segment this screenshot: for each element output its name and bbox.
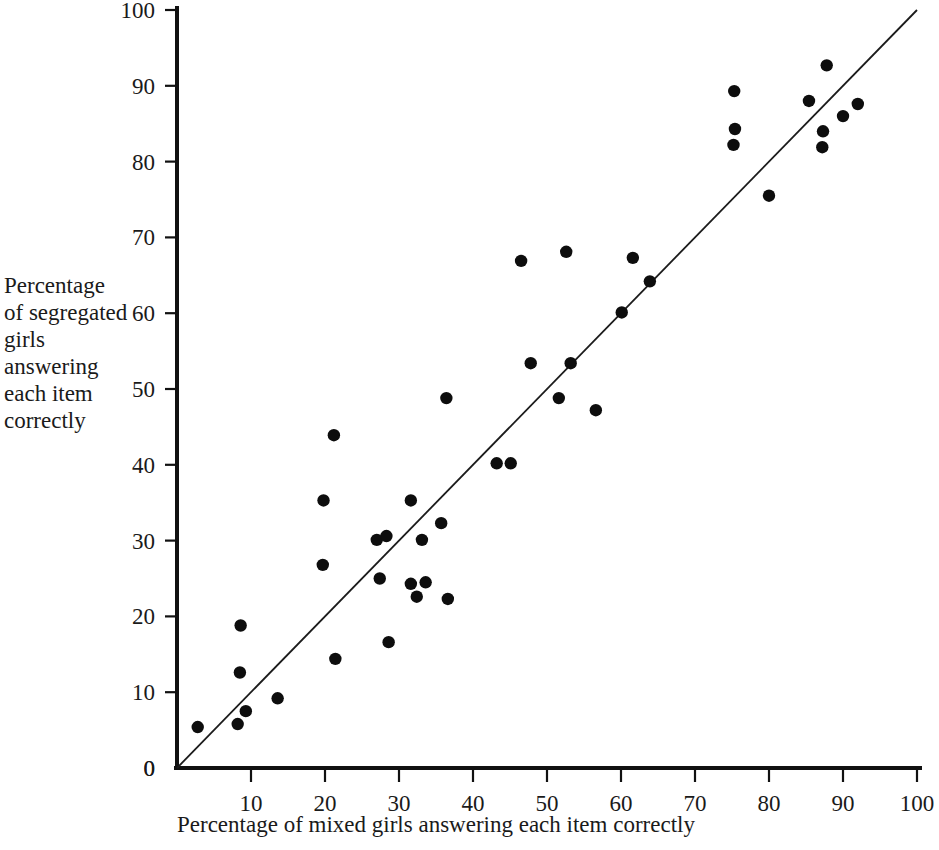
y-tick-label: 30 — [132, 529, 155, 554]
data-point — [525, 357, 537, 369]
data-point — [560, 246, 572, 258]
y-tick-label: 60 — [132, 301, 155, 326]
data-point — [837, 110, 849, 122]
data-point — [553, 392, 565, 404]
data-point — [505, 457, 517, 469]
data-point — [729, 123, 741, 135]
data-point — [405, 578, 417, 590]
data-point — [234, 666, 246, 678]
data-point — [411, 590, 423, 602]
data-point — [435, 517, 447, 529]
data-point — [317, 559, 329, 571]
data-point — [817, 125, 829, 137]
data-point — [616, 306, 628, 318]
data-point — [816, 141, 828, 153]
data-point — [728, 85, 740, 97]
identity-reference-line — [177, 10, 917, 768]
data-point — [231, 718, 243, 730]
data-point — [328, 429, 340, 441]
data-point — [329, 653, 341, 665]
y-tick-label: 70 — [132, 225, 155, 250]
data-point — [240, 705, 252, 717]
y-tick-label: 20 — [132, 604, 155, 629]
data-point — [490, 457, 502, 469]
scatter-plot-figure: 0102030405060708090100010203040506070809… — [0, 0, 939, 850]
data-point — [763, 190, 775, 202]
y-tick-label: 90 — [132, 74, 155, 99]
data-point — [317, 494, 329, 506]
y-tick-label: 80 — [132, 150, 155, 175]
x-tick-label: 0 — [144, 756, 156, 781]
x-axis-title: Percentage of mixed girls answering each… — [177, 812, 917, 838]
data-point — [590, 404, 602, 416]
data-point — [644, 275, 656, 287]
y-tick-label: 10 — [132, 680, 155, 705]
y-tick-label: 40 — [132, 453, 155, 478]
y-tick-label: 50 — [132, 377, 155, 402]
y-axis-title: Percentage of segregated girls answering… — [4, 272, 130, 434]
data-point — [727, 139, 739, 151]
data-point — [405, 494, 417, 506]
data-point — [627, 252, 639, 264]
data-point — [564, 357, 576, 369]
data-point — [803, 95, 815, 107]
identity-reference-line — [177, 10, 917, 768]
data-point — [271, 692, 283, 704]
data-point — [234, 619, 246, 631]
y-tick-label: 100 — [121, 0, 156, 23]
data-point — [852, 98, 864, 110]
data-point — [419, 576, 431, 588]
data-point — [515, 255, 527, 267]
data-points-group — [192, 59, 864, 733]
data-point — [821, 59, 833, 71]
data-point — [416, 534, 428, 546]
data-point — [374, 572, 386, 584]
plot-canvas: 0102030405060708090100010203040506070809… — [0, 0, 939, 850]
data-point — [440, 392, 452, 404]
data-point — [192, 721, 204, 733]
data-point — [442, 593, 454, 605]
data-point — [382, 636, 394, 648]
data-point — [380, 530, 392, 542]
